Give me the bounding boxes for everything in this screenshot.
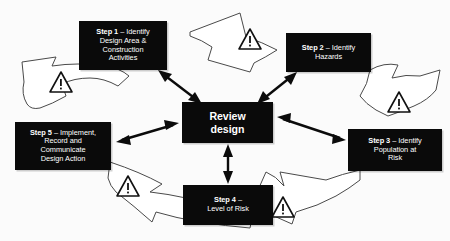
center-box-label: Review design [206, 110, 248, 136]
center-box-review-design[interactable]: Review design [182, 102, 273, 143]
step-box-step1[interactable]: Step 1 – Identify Design Area & Construc… [79, 21, 167, 70]
diagram-canvas: Step 1 – Identify Design Area & Construc… [0, 0, 450, 241]
step1-lead: Step 1 [96, 27, 118, 36]
spoke-arrow-center-step3 [277, 113, 346, 144]
step5-lead: Step 5 [30, 128, 52, 137]
step4-lead: Step 4 [214, 195, 236, 204]
step4-rest: Level of Risk [207, 204, 249, 213]
step-box-step5[interactable]: Step 5 – Implement, Record and Communica… [15, 122, 111, 170]
step-box-step3-label: Step 3 – Identify Population at Risk [365, 137, 424, 163]
step-box-step3[interactable]: Step 3 – Identify Population at Risk [348, 129, 442, 171]
step-box-step1-label: Step 1 – Identify Design Area & Construc… [93, 28, 152, 63]
step4-dash: – [236, 195, 242, 204]
step-box-step4-label: Step 4 – Level of Risk [204, 196, 252, 213]
spoke-arrow-center-step1 [158, 70, 202, 104]
step5-dash: – [52, 128, 60, 137]
spoke-arrow-center-step2 [257, 72, 297, 104]
step-box-step2-label: Step 2 – Identify Hazards [299, 44, 358, 61]
step-box-step2[interactable]: Step 2 – Identify Hazards [286, 33, 371, 72]
step2-lead: Step 2 [302, 43, 324, 52]
spoke-arrow-center-step4 [223, 144, 233, 184]
step2-dash: – [324, 43, 332, 52]
step3-lead: Step 3 [368, 136, 390, 145]
step-box-step4[interactable]: Step 4 – Level of Risk [183, 185, 273, 225]
step-box-step5-label: Step 5 – Implement, Record and Communica… [27, 129, 99, 164]
spoke-arrow-center-step5 [116, 120, 179, 145]
